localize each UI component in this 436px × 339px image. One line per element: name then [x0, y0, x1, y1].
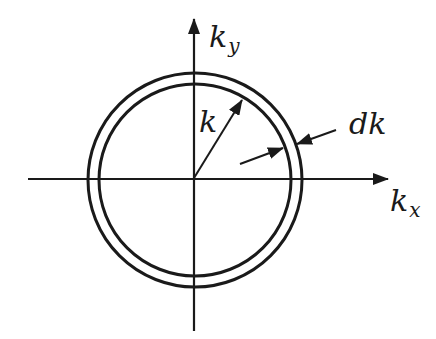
k-space-diagram: ky kx k dk: [0, 0, 436, 339]
kx-label-main: k: [390, 183, 408, 218]
ky-label-main: k: [209, 19, 227, 54]
dk-label: dk: [349, 109, 386, 139]
ky-label: ky: [209, 22, 240, 52]
kx-label-sub: x: [409, 198, 420, 222]
dk-inner-arrow: [240, 148, 283, 164]
ky-label-sub: y: [228, 34, 239, 58]
radius-label: k: [199, 107, 217, 137]
dk-outer-arrow: [297, 130, 336, 144]
kx-label: kx: [390, 186, 420, 216]
